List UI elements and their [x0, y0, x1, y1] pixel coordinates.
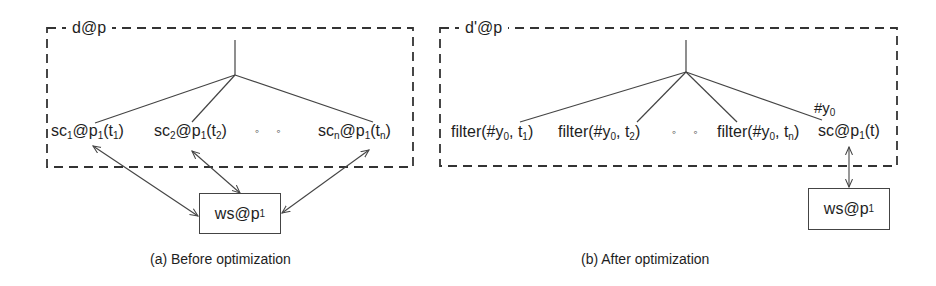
service-box-after: ws@p1 — [808, 188, 890, 230]
diagram-lines — [0, 0, 936, 286]
node-sc: sc@p1(t) — [818, 122, 880, 140]
tree-after — [520, 40, 822, 122]
caption-before: (a) Before optimization — [150, 251, 291, 267]
edge-label-y0: #y0 — [814, 99, 835, 117]
ellipsis-after: ◦ ◦ — [672, 123, 698, 141]
node-filter-2: filter(#y0, t2) — [558, 123, 640, 141]
node-sc2: sc2@p1(t2) — [154, 122, 227, 140]
caption-after: (b) After optimization — [581, 251, 709, 267]
tree-before — [95, 40, 373, 123]
container-after — [440, 28, 897, 166]
node-sc1: sc1@p1(t1) — [51, 122, 124, 140]
service-box-before: ws@p1 — [199, 193, 281, 234]
node-filter-1: filter(#y0, t1) — [451, 123, 533, 141]
ellipsis-before: ◦ ◦ — [255, 122, 281, 140]
node-filter-n: filter(#y0, tn) — [717, 123, 799, 141]
node-scn: scn@p1(tn) — [318, 122, 391, 140]
container-before — [47, 28, 413, 167]
container-label-after: d'@p — [459, 19, 508, 37]
container-label-before: d@p — [66, 19, 112, 37]
